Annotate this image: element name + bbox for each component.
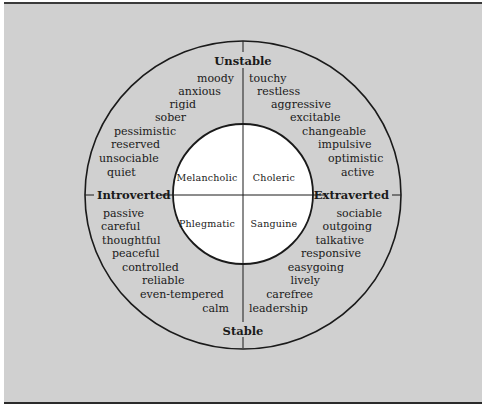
trait: sober	[155, 111, 187, 124]
trait: reserved	[111, 138, 160, 151]
trait: aggressive	[271, 98, 331, 111]
axis-label-stable: Stable	[223, 324, 264, 338]
trait: controlled	[122, 261, 179, 274]
trait: unsociable	[99, 152, 159, 165]
trait: optimistic	[328, 152, 383, 165]
trait: sociable	[336, 207, 382, 220]
trait: anxious	[178, 85, 221, 98]
temperament-phlegmatic: Phlegmatic	[179, 218, 235, 229]
trait: pessimistic	[114, 125, 176, 138]
trait: leadership	[249, 302, 308, 315]
trait: responsive	[301, 247, 361, 260]
trait: thoughtful	[102, 234, 161, 247]
temperament-melancholic: Melancholic	[177, 172, 238, 183]
trait: touchy	[249, 72, 287, 85]
trait: calm	[202, 302, 229, 315]
trait: even-tempered	[140, 288, 224, 301]
trait: impulsive	[318, 138, 371, 151]
temperament-diagram: Unstable Stable Introverted Extraverted …	[0, 0, 491, 417]
axis-label-unstable: Unstable	[214, 54, 271, 68]
trait: rigid	[170, 98, 196, 111]
trait: moody	[197, 72, 235, 85]
trait: carefree	[266, 288, 313, 301]
trait: quiet	[107, 166, 136, 179]
trait: lively	[291, 274, 321, 287]
temperament-sanguine: Sanguine	[251, 218, 298, 229]
trait: easygoing	[288, 261, 344, 274]
temperament-choleric: Choleric	[253, 172, 295, 183]
trait: outgoing	[323, 220, 372, 233]
trait: passive	[103, 207, 144, 220]
trait: careful	[101, 220, 141, 233]
trait: restless	[257, 85, 301, 98]
axis-label-introverted: Introverted	[97, 188, 171, 202]
trait: changeable	[302, 125, 366, 138]
trait: peaceful	[112, 247, 160, 260]
trait: active	[341, 166, 374, 179]
trait: talkative	[316, 234, 364, 247]
trait: excitable	[290, 111, 340, 124]
axis-label-extraverted: Extraverted	[314, 188, 389, 202]
trait: reliable	[142, 274, 184, 287]
